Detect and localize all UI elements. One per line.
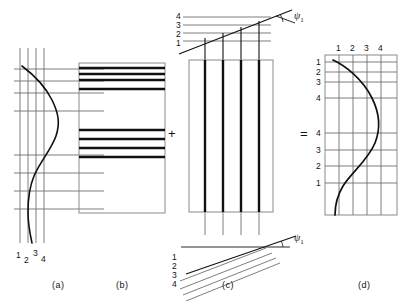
panel-a-label-4: 4	[41, 254, 46, 264]
panel-d-left-label-3a: 3	[316, 77, 321, 87]
panel-a	[14, 48, 104, 243]
plus-operator: +	[168, 126, 176, 141]
panel-d-left-label-2b: 2	[316, 161, 321, 171]
diagram-svg	[0, 0, 406, 301]
panel-d-left-label-1b: 1	[316, 178, 321, 188]
caption-a: (a)	[52, 280, 65, 290]
panel-c-bottom-angle-ray	[186, 236, 296, 274]
caption-c: (c)	[222, 280, 234, 290]
figure-canvas: 1 2 3 4 4 3 2 1 1 2 3 4 ψ1 ψ1 1 2 3 4 1 …	[0, 0, 406, 301]
panel-c-lower-verticals	[205, 212, 259, 235]
panel-c-frame	[189, 60, 273, 212]
panel-c-top-label-1: 1	[176, 38, 181, 48]
panel-c-top-angle-baseline	[276, 16, 295, 23]
panel-d-top-label-1: 1	[336, 43, 341, 53]
panel-a-label-1: 1	[16, 250, 21, 260]
panel-c-top-slant-lines	[183, 17, 271, 41]
panel-d-left-label-4a: 4	[316, 93, 321, 103]
panel-c-bottom-angle-arc	[281, 241, 283, 247]
panel-d	[325, 55, 397, 215]
panel-c-bottom-slant-lines	[180, 248, 280, 301]
panel-a-label-2: 2	[24, 255, 29, 265]
panel-d-left-label-3b: 3	[316, 145, 321, 155]
equals-operator: =	[300, 126, 308, 141]
panel-d-top-label-4: 4	[378, 43, 383, 53]
panel-d-resultant-curve	[333, 60, 379, 215]
caption-b: (b)	[116, 280, 129, 290]
panel-a-vertical-lines	[20, 48, 44, 243]
panel-c	[179, 10, 296, 301]
panel-d-top-label-2: 2	[350, 43, 355, 53]
psi-top-label: ψ1	[294, 10, 304, 24]
panel-d-top-label-3: 3	[364, 43, 369, 53]
panel-d-frame	[325, 55, 397, 215]
panel-c-grating-lines	[205, 60, 259, 212]
panel-d-left-label-2a: 2	[316, 67, 321, 77]
panel-b	[79, 63, 165, 213]
panel-c-bottom-label-4: 4	[172, 279, 177, 289]
psi-bottom-label: ψ1	[294, 232, 304, 246]
caption-d: (d)	[358, 280, 371, 290]
panel-d-left-label-4b: 4	[316, 128, 321, 138]
panel-d-vertical-gridlines	[339, 55, 381, 215]
panel-d-left-label-1a: 1	[316, 57, 321, 67]
panel-a-label-3: 3	[33, 248, 38, 258]
